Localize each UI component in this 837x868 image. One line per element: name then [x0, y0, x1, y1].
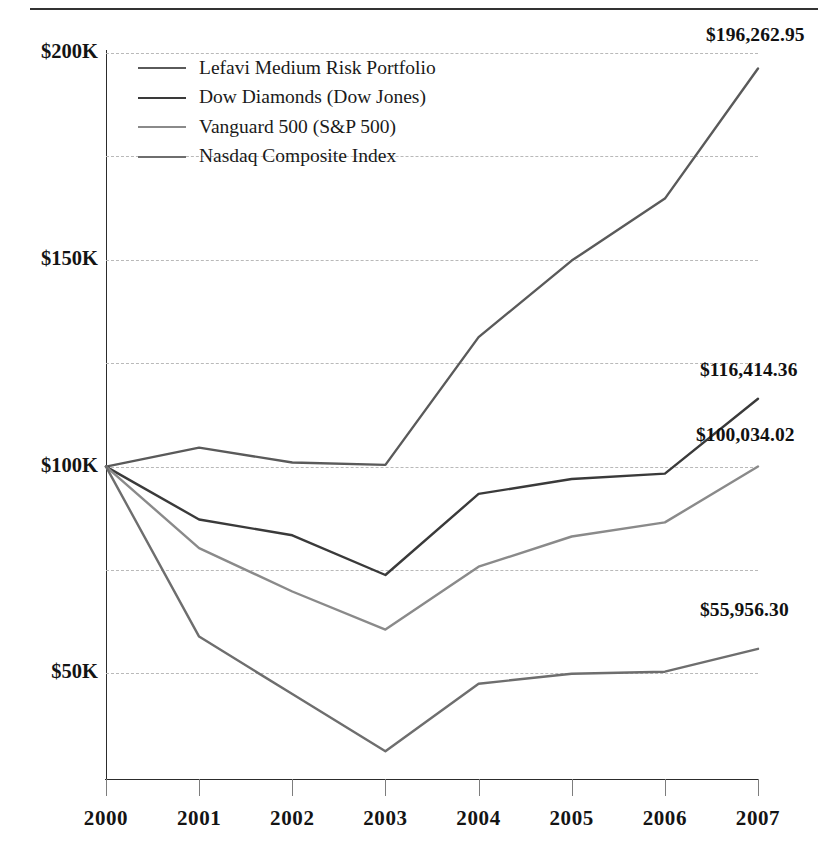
header-rule — [30, 8, 818, 10]
chart-legend: Lefavi Medium Risk PortfolioDow Diamonds… — [138, 58, 436, 167]
legend-label: Lefavi Medium Risk Portfolio — [199, 58, 436, 78]
x-axis-line — [105, 779, 759, 780]
gridline — [106, 53, 758, 54]
series-endpoint-label: $55,956.30 — [700, 599, 789, 621]
y-axis-tick-label: $100K — [6, 454, 98, 477]
x-axis-tick — [106, 779, 107, 796]
legend-label: Vanguard 500 (S&P 500) — [199, 117, 396, 137]
y-axis-tick-label: $50K — [6, 660, 98, 683]
legend-label: Nasdaq Composite Index — [199, 146, 396, 166]
series-endpoint-label: $116,414.36 — [700, 359, 798, 381]
legend-item: Lefavi Medium Risk Portfolio — [138, 58, 436, 78]
x-axis-tick — [572, 779, 573, 796]
x-axis-tick — [479, 779, 480, 796]
gridline — [106, 363, 758, 364]
legend-item: Nasdaq Composite Index — [138, 146, 436, 166]
legend-item: Dow Diamonds (Dow Jones) — [138, 87, 436, 107]
chart-canvas: $200K$150K$100K$50K 20002001200220032004… — [0, 0, 837, 868]
series-endpoint-label: $196,262.95 — [706, 24, 805, 46]
x-axis-tick — [665, 779, 666, 796]
x-axis-tick-label: 2005 — [550, 806, 594, 831]
legend-item: Vanguard 500 (S&P 500) — [138, 117, 436, 137]
x-axis-tick-label: 2000 — [84, 806, 128, 831]
x-axis-tick-label: 2007 — [736, 806, 780, 831]
x-axis-tick — [292, 779, 293, 796]
legend-line-swatch — [138, 156, 186, 158]
x-axis-tick-label: 2001 — [177, 806, 221, 831]
gridline — [106, 260, 758, 261]
y-axis-tick-label: $200K — [6, 40, 98, 63]
legend-label: Dow Diamonds (Dow Jones) — [199, 87, 426, 107]
gridline — [106, 570, 758, 571]
gridline — [106, 673, 758, 674]
x-axis-tick-label: 2002 — [270, 806, 314, 831]
legend-line-swatch — [138, 67, 186, 69]
series-endpoint-label: $100,034.02 — [696, 424, 795, 446]
x-axis-tick-label: 2006 — [643, 806, 687, 831]
x-axis-tick-label: 2004 — [456, 806, 500, 831]
gridline — [106, 467, 758, 468]
legend-line-swatch — [138, 126, 186, 128]
x-axis-tick — [758, 779, 759, 796]
x-axis-tick-label: 2003 — [363, 806, 407, 831]
legend-line-swatch — [138, 97, 186, 99]
x-axis-tick — [385, 779, 386, 796]
y-axis-tick-label: $150K — [6, 247, 98, 270]
x-axis-tick — [199, 779, 200, 796]
